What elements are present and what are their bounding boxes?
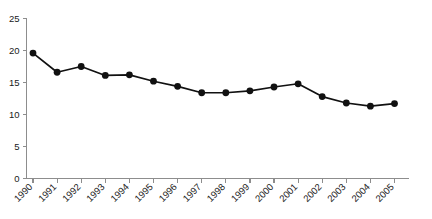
series-line-rate	[33, 53, 395, 106]
axes-group	[27, 19, 409, 179]
data-point-marker: 1996: 14.4	[174, 83, 181, 90]
y-axis-ticks: 0510152025	[9, 13, 27, 184]
line-chart: 0510152025199019911992199319941995199619…	[0, 0, 432, 219]
x-tick-label: 1997	[180, 181, 203, 204]
data-point-marker: 1990: 19.6	[30, 50, 37, 57]
x-tick-label: 2005	[373, 181, 396, 204]
chart-canvas: 0510152025199019911992199319941995199619…	[0, 0, 432, 219]
data-point-marker: 2004: 11.3	[367, 103, 374, 110]
y-tick-label: 0	[14, 173, 19, 184]
data-point-marker: 1994: 16.2	[126, 71, 133, 78]
data-point-marker: 1992: 17.5	[78, 63, 85, 70]
y-tick-label: 25	[9, 13, 20, 24]
x-tick-label: 1990	[12, 181, 35, 204]
data-point-marker: 1991: 16.6	[54, 69, 61, 76]
data-point-marker: 1998: 13.4	[222, 89, 229, 96]
data-point-marker: 2001: 14.8	[295, 80, 302, 87]
x-tick-label: 1993	[84, 181, 107, 204]
x-tick-label: 1999	[229, 181, 252, 204]
x-tick-label: 1995	[132, 181, 155, 204]
data-point-marker: 2005: 11.7	[391, 100, 398, 107]
x-axis-ticks: 1990199119921993199419951996199719981999…	[12, 179, 396, 204]
data-point-marker: 2002: 12.8	[319, 93, 326, 100]
x-tick-label: 1998	[204, 181, 227, 204]
y-tick-label: 15	[9, 77, 20, 88]
data-point-marker: 1995: 15.2	[150, 78, 157, 85]
data-point-marker: 1993: 16.1	[102, 72, 109, 79]
x-tick-label: 1996	[156, 181, 179, 204]
data-series-group: 1990: 19.61991: 16.61992: 17.51993: 16.1…	[30, 50, 398, 110]
x-tick-label: 1992	[60, 181, 83, 204]
data-point-marker: 1999: 13.7	[247, 87, 254, 94]
data-point-marker: 2000: 14.3	[271, 84, 278, 91]
data-point-marker: 2003: 11.8	[343, 100, 350, 107]
y-tick-label: 10	[9, 109, 20, 120]
x-tick-label: 2000	[253, 181, 276, 204]
x-tick-label: 2002	[301, 181, 324, 204]
x-tick-label: 2004	[349, 181, 372, 204]
data-point-marker: 1997: 13.4	[198, 89, 205, 96]
x-tick-label: 1994	[108, 181, 131, 204]
x-tick-label: 2003	[325, 181, 348, 204]
y-tick-label: 5	[14, 141, 19, 152]
x-tick-label: 2001	[277, 181, 300, 204]
y-tick-label: 20	[9, 45, 20, 56]
x-tick-label: 1991	[36, 181, 59, 204]
